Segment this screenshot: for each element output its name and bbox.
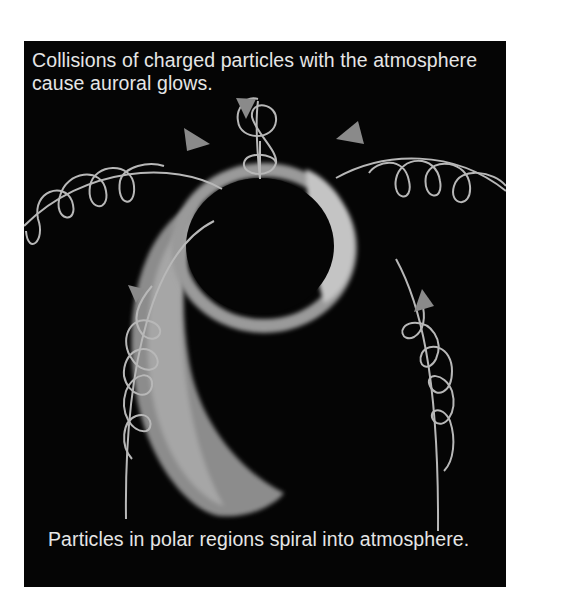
bottom-caption: Particles in polar regions spiral into a… xyxy=(48,528,469,551)
top-caption-line-1: Collisions of charged particles with the… xyxy=(32,49,502,72)
arrow-right-icon xyxy=(184,128,210,151)
arrow-left-icon xyxy=(336,121,364,144)
top-caption-line-2: cause auroral glows. xyxy=(32,72,502,95)
top-caption: Collisions of charged particles with the… xyxy=(32,49,502,95)
aurora-illustration xyxy=(24,41,506,587)
polar-cap-dark xyxy=(186,178,334,314)
aurora-diagram-panel: Collisions of charged particles with the… xyxy=(24,41,506,587)
arrow-up-icon xyxy=(414,289,434,312)
